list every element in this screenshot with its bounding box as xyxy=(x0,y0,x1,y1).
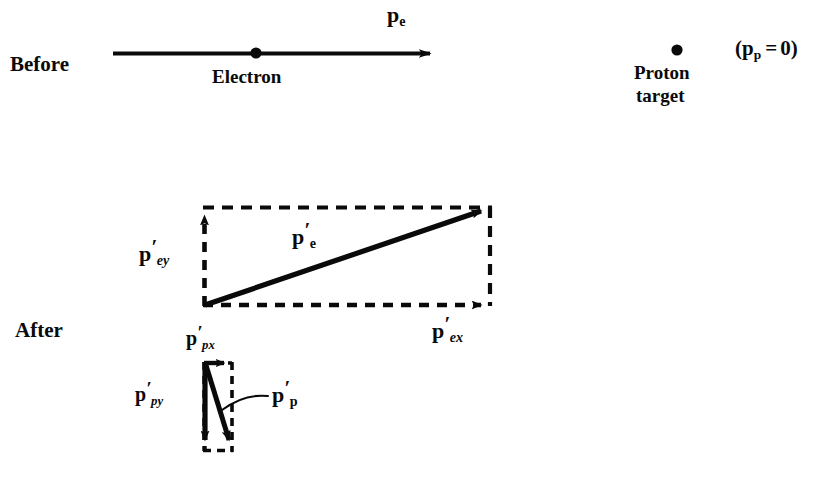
proton-expr-value: 0 xyxy=(780,36,791,60)
after-electron-y-component-label: p′ey xyxy=(139,243,170,265)
before-electron-particle-label: Electron xyxy=(212,67,281,86)
proton-expr-equals: = xyxy=(765,36,777,60)
after-proton-resultant-subscript: p xyxy=(290,393,298,409)
after-proton-resultant-label: p′p xyxy=(272,384,298,406)
after-electron-resultant-arrow xyxy=(205,211,481,305)
proton-expr-subscript: p xyxy=(754,47,761,62)
proton-expr-close-paren: ) xyxy=(791,36,798,60)
after-electron-x-symbol: p xyxy=(432,318,444,343)
after-electron-x-subscript: ex xyxy=(450,329,464,345)
before-electron-group xyxy=(113,47,430,58)
after-proton-resultant-leader-line xyxy=(222,396,268,410)
after-proton-y-symbol: p xyxy=(135,383,146,405)
after-electron-resultant-symbol: p xyxy=(292,224,304,249)
proton-expr-symbol: p xyxy=(742,36,754,60)
before-electron-momentum-label: pe xyxy=(387,4,406,26)
after-proton-resultant-symbol: p xyxy=(272,382,284,407)
after-proton-y-subscript: py xyxy=(151,394,163,408)
after-proton-x-symbol: p xyxy=(186,327,197,349)
after-electron-box-group xyxy=(203,207,492,306)
after-electron-resultant-label: p′e xyxy=(292,226,316,248)
after-proton-x-subscript: px xyxy=(202,338,215,352)
after-proton-y-component-label: p′py xyxy=(135,384,163,404)
after-proton-resultant-arrow xyxy=(205,362,229,440)
after-electron-x-component-label: p′ex xyxy=(432,320,463,342)
after-electron-resultant-subscript: e xyxy=(310,235,316,251)
proton-expr-open-paren: ( xyxy=(735,36,742,60)
before-proton-label-line2: target xyxy=(636,86,685,105)
after-proton-x-component-label: p′px xyxy=(186,328,215,348)
after-proton-box-group xyxy=(203,362,268,452)
after-electron-y-subscript: ey xyxy=(157,252,170,268)
before-phase-label: Before xyxy=(10,54,69,75)
before-electron-momentum-subscript: e xyxy=(399,13,405,29)
after-phase-label: After xyxy=(15,320,63,341)
before-proton-dot xyxy=(671,44,682,55)
after-electron-y-symbol: p xyxy=(139,241,151,266)
before-electron-momentum-symbol: p xyxy=(387,2,399,27)
before-proton-label-line1: Proton xyxy=(634,63,690,82)
diagram-vector-layer xyxy=(0,0,834,479)
momentum-diagram-figure: Before pe Electron Proton target (pp=0) … xyxy=(0,0,834,479)
before-proton-group xyxy=(671,44,682,55)
before-electron-dot xyxy=(250,47,261,58)
before-proton-momentum-expression: (pp=0) xyxy=(735,38,798,59)
